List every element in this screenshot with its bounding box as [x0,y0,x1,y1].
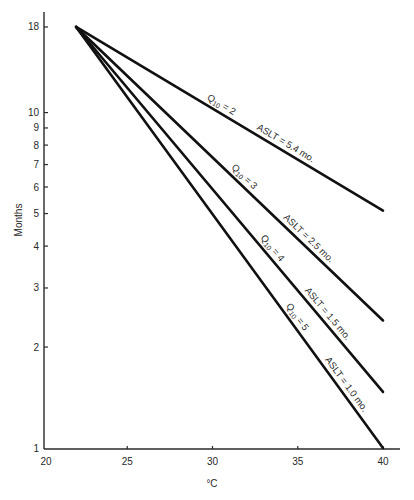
series-line-q10-3 [76,27,383,320]
series-labels: Q10 = 2ASLT = 5.4 mo.Q10 = 3ASLT = 2.5 m… [205,91,371,413]
y-tick-label: 3 [33,282,39,293]
series-line-q10-5 [76,27,383,448]
aslt-label: ASLT = 2.5 mo. [282,211,337,264]
x-tick-label: 30 [207,456,219,467]
y-tick-label: 9 [33,122,39,133]
series-line-q10-2 [76,27,383,211]
y-tick-label: 7 [33,159,39,170]
series-line-q10-4 [76,27,383,392]
y-tick-label: 2 [33,342,39,353]
y-tick-label: 6 [33,182,39,193]
y-tick-label: 1 [33,443,39,454]
x-axis: 2025303540 [40,446,400,467]
q10-shelf-life-chart: 1234567891018 2025303540 Q10 = 2ASLT = 5… [0,0,414,500]
aslt-label: ASLT = 1.5 mo. [303,285,354,342]
y-axis-title: Months [13,204,24,237]
y-tick-label: 8 [33,140,39,151]
y-tick-label: 5 [33,208,39,219]
y-tick-label: 4 [33,241,39,252]
aslt-label: ASLT = 1.0 mo. [323,354,370,413]
x-tick-label: 25 [122,456,134,467]
y-axis: 1234567891018 [28,12,48,454]
x-axis-title: °C [206,478,217,489]
series-lines [76,27,383,448]
y-tick-label: 10 [28,107,40,118]
x-tick-label: 35 [292,456,304,467]
x-tick-label: 40 [377,456,389,467]
aslt-label: ASLT = 5.4 mo. [255,121,317,164]
y-tick-label: 18 [28,21,40,32]
x-tick-label: 20 [40,456,52,467]
